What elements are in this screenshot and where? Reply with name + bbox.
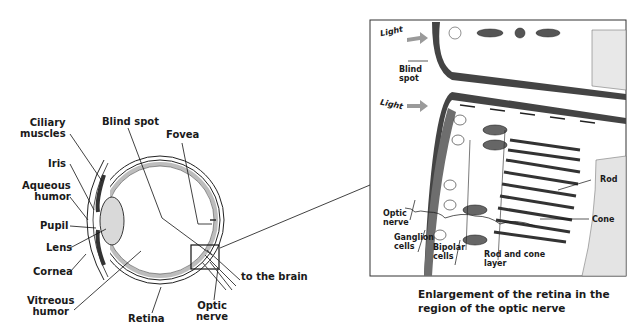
label-cone: Cone [592, 215, 615, 224]
eye-cross-section [87, 156, 240, 290]
label-vitreous-humor: Vitreous humor [27, 295, 74, 317]
label-blind-spot: Blind spot [102, 116, 159, 127]
label-panel-blind-spot: Blind spot [399, 65, 422, 83]
label-iris: Iris [48, 158, 66, 169]
label-ganglion-cells: Ganglion cells [394, 233, 434, 251]
label-aqueous-humor: Aqueous humor [22, 180, 71, 202]
label-fovea: Fovea [166, 129, 199, 140]
label-bipolar-cells: Bipolar cells [433, 243, 465, 261]
label-rod-and-cone-layer: Rod and cone layer [484, 250, 545, 268]
diagram-artwork [0, 0, 640, 335]
label-to-the-brain: to the brain [241, 271, 308, 282]
label-rod: Rod [600, 175, 617, 184]
label-ciliary-muscles: Ciliary muscles [20, 117, 66, 139]
label-cornea: Cornea [33, 266, 73, 277]
label-lens: Lens [46, 242, 72, 253]
label-pupil: Pupil [40, 220, 68, 231]
label-panel-optic-nerve: Optic nerve [383, 209, 409, 227]
figure-caption: Enlargement of the retina in the region … [418, 287, 610, 315]
label-optic-nerve: Optic nerve [196, 300, 228, 322]
label-retina: Retina [128, 313, 165, 324]
